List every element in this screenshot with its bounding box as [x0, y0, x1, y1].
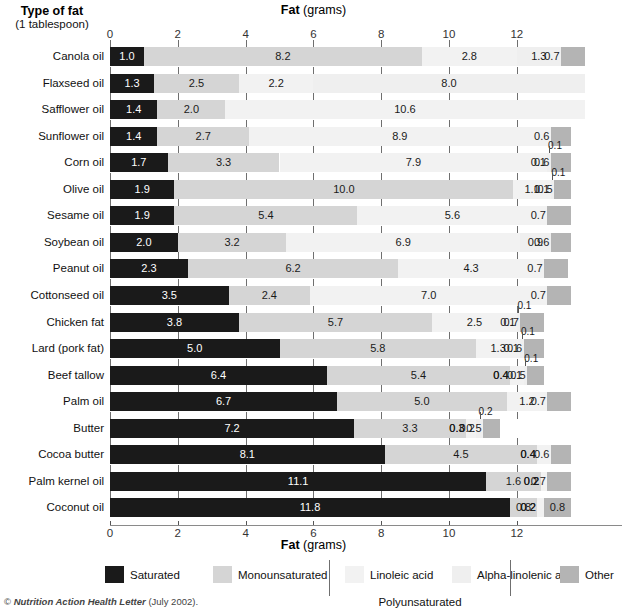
segment-other	[547, 206, 571, 225]
alpha-linolenic-callout: 0.1	[548, 140, 562, 151]
row-label: Safflower oil	[0, 103, 104, 115]
gridline	[517, 146, 518, 153]
gridline	[381, 385, 382, 392]
gridline	[381, 465, 382, 472]
gridline	[246, 359, 247, 366]
gridline	[110, 491, 111, 498]
gridline	[246, 146, 247, 153]
segment-value-label: 1.6	[506, 472, 521, 491]
gridline	[110, 226, 111, 233]
gridline	[110, 67, 111, 74]
axis-title-bottom: Fat (grams)	[110, 538, 517, 552]
gridline	[449, 306, 450, 313]
gridline	[178, 120, 179, 127]
segment-value-label: 0.6	[534, 127, 549, 146]
axis-baseline	[110, 525, 622, 526]
gridline	[178, 438, 179, 445]
x-tick-label-top: 2	[175, 28, 181, 40]
legend-item[interactable]: Other	[560, 566, 614, 583]
segment-value-label: 5.4	[258, 206, 273, 225]
segment-value-label: 0.7	[544, 47, 559, 66]
gridline	[178, 93, 179, 100]
axis-title-bottom-bold: Fat	[281, 538, 300, 552]
gridline	[178, 146, 179, 153]
gridline	[449, 332, 450, 339]
row-label: Flaxseed oil	[0, 77, 104, 89]
segment-value-label: 0.7	[504, 313, 519, 332]
gridline	[381, 120, 382, 127]
callout-leader	[522, 332, 523, 339]
alpha-linolenic-callout: 0.1	[524, 353, 538, 364]
gridline	[313, 465, 314, 472]
segment-value-label: 10.0	[333, 180, 354, 199]
row-label: Palm kernel oil	[0, 475, 104, 487]
segment-value-label: 2.3	[141, 259, 156, 278]
gridline	[246, 412, 247, 419]
segment-value-label: 5.0	[414, 392, 429, 411]
row-label: Cottonseed oil	[0, 289, 104, 301]
gridline	[178, 491, 179, 498]
row-label: Chicken fat	[0, 316, 104, 328]
gridline	[178, 279, 179, 286]
x-tick-mark-bottom	[246, 521, 247, 525]
gridline	[517, 491, 518, 498]
gridline	[381, 146, 382, 153]
x-tick-mark-bottom	[110, 521, 111, 525]
gridline	[449, 438, 450, 445]
row-label: Cocoa butter	[0, 448, 104, 460]
segment-value-label: 3.8	[167, 313, 182, 332]
segment-value-label: 0.5	[510, 366, 525, 385]
axis-title-top-rest: (grams)	[300, 3, 347, 17]
gridline	[517, 465, 518, 472]
segment-other	[544, 259, 568, 278]
legend-swatch-icon	[105, 566, 124, 583]
x-tick-label-bottom: 12	[510, 527, 523, 539]
segment-value-label: 1.3	[124, 74, 139, 93]
gridline	[110, 385, 111, 392]
gridline	[449, 40, 450, 47]
gridline	[517, 120, 518, 127]
segment-other	[561, 47, 585, 66]
gridline	[313, 93, 314, 100]
segment-value-label: 0.7	[531, 206, 546, 225]
legend-item[interactable]: Monounsaturated	[213, 566, 328, 583]
source-date: (July 2002).	[146, 596, 198, 607]
x-tick-mark-bottom	[313, 521, 314, 525]
gridline	[517, 332, 518, 339]
gridline	[110, 199, 111, 206]
segment-other	[551, 233, 571, 252]
segment-value-label: 5.0	[187, 339, 202, 358]
gridline	[449, 199, 450, 206]
segment-value-label: 5.6	[445, 206, 460, 225]
gridline	[313, 279, 314, 286]
corner-title-line1: Type of fat	[0, 4, 104, 18]
gridline	[313, 359, 314, 366]
row-label: Peanut oil	[0, 262, 104, 274]
segment-other	[554, 180, 571, 199]
row-label: Canola oil	[0, 50, 104, 62]
gridline	[449, 67, 450, 74]
gridline	[110, 173, 111, 180]
row-label: Soybean oil	[0, 236, 104, 248]
gridline	[313, 146, 314, 153]
segment-value-label: 2.2	[268, 74, 283, 93]
gridline	[313, 491, 314, 498]
linoleic-callout: 0.3	[449, 419, 464, 438]
gridline	[178, 67, 179, 74]
gridline	[246, 332, 247, 339]
segment-other	[483, 419, 500, 438]
legend-item[interactable]: Saturated	[105, 566, 180, 583]
gridline	[246, 40, 247, 47]
gridline	[178, 306, 179, 313]
segment-value-label: 0.7	[531, 286, 546, 305]
axis-title-top: Fat (grams)	[110, 3, 517, 17]
segment-value-label: 2.5	[189, 74, 204, 93]
linoleic-callout: 0.2	[520, 498, 535, 517]
callout-leader	[525, 359, 526, 366]
gridline	[449, 279, 450, 286]
segment-value-label: 1.4	[126, 100, 141, 119]
gridline	[313, 385, 314, 392]
alpha-linolenic-callout: 0.1	[521, 326, 535, 337]
segment-value-label: 2.7	[196, 127, 211, 146]
segment-value-label: 4.3	[463, 259, 478, 278]
